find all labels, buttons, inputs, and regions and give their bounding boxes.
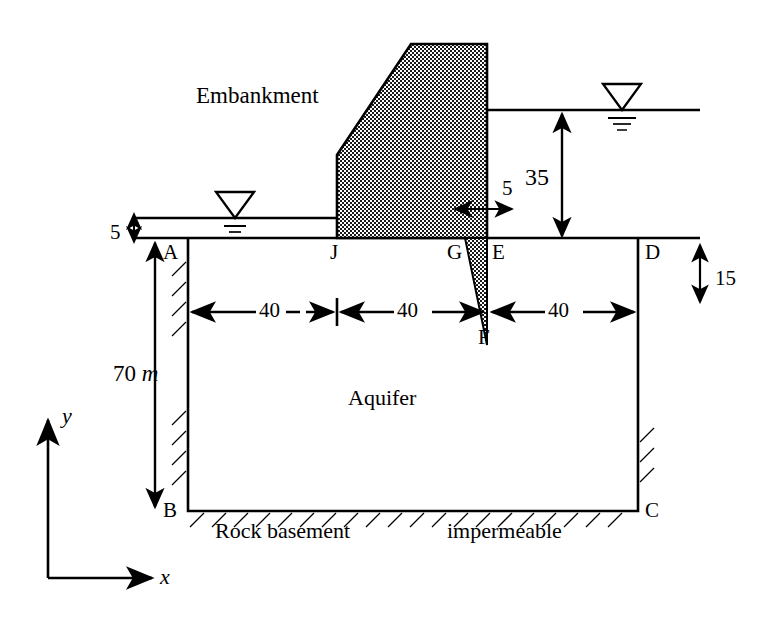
coordinate-axes [48,420,152,578]
dim-label-right-head: 35 [525,165,549,189]
left-boundary-hatching [172,262,186,485]
dim-unit-m: m [142,361,159,386]
point-label-c: C [645,500,659,521]
dim-value-70: 70 [113,361,136,386]
dim-label-span-fd: 40 [548,300,569,321]
water-table-right-icon [603,84,641,130]
embankment-label: Embankment [196,84,319,107]
x-axis-label: x [160,566,170,588]
diagram-canvas: Embankment Aquifer Rock basement imperme… [0,0,772,638]
y-axis-label: y [62,405,72,427]
point-label-j: J [330,242,338,263]
dim-label-cutoff-width: 5 [502,178,513,199]
rock-basement-label: Rock basement [215,520,350,542]
point-label-f: F [478,327,490,348]
diagram-svg [0,0,772,638]
point-label-e: E [492,242,505,263]
aquifer-label: Aquifer [348,387,416,409]
point-label-b: B [163,500,177,521]
dim-label-left-head: 5 [110,222,121,243]
water-table-left-icon [216,192,254,232]
point-label-d: D [645,242,660,263]
right-boundary-hatching [640,428,654,482]
dim-label-cutoff-depth: 15 [715,268,736,289]
dim-label-span-jf: 40 [397,300,418,321]
point-label-a: A [163,242,178,263]
dim-label-aquifer-depth: 70 m [113,362,158,385]
point-label-g: G [447,242,462,263]
aquifer-boundary [188,238,638,511]
impermeable-label: impermeable [447,520,562,542]
dim-label-span-aj: 40 [259,300,280,321]
